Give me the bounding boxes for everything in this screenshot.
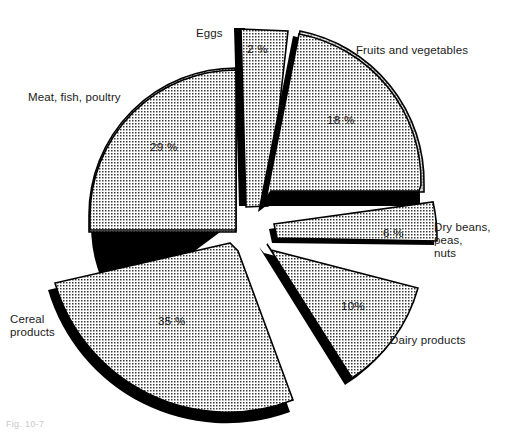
slice-label-fruits-and-vegetables: Fruits and vegetables bbox=[356, 44, 468, 57]
slice-label-meat-fish-poultry: Meat, fish, poultry bbox=[28, 91, 121, 104]
slice-label-eggs: Eggs bbox=[196, 27, 223, 40]
slice-value-eggs: 2 % bbox=[247, 43, 268, 55]
slice-label-cereal-products: Cereal products bbox=[10, 313, 55, 339]
slice-dairy-products bbox=[259, 244, 418, 385]
slice-beans-face bbox=[274, 202, 437, 241]
slice-label-dry-beans-peas-nuts: Dry beans, peas, nuts bbox=[434, 221, 491, 260]
slice-value-fruits-and-vegetables: 18 % bbox=[327, 114, 354, 126]
pie-chart-graphic bbox=[0, 0, 510, 433]
slice-value-dairy-products: 10% bbox=[341, 300, 365, 312]
slice-label-dairy-products: Dairy products bbox=[390, 334, 466, 347]
slice-value-dry-beans-peas-nuts: 6 % bbox=[383, 227, 404, 239]
figure-caption: Fig. 10-7 bbox=[6, 419, 44, 429]
slice-dry-beans-peas-nuts bbox=[269, 202, 437, 245]
slice-value-meat-fish-poultry: 29 % bbox=[150, 141, 177, 153]
slice-value-cereal-products: 35 % bbox=[158, 315, 185, 327]
pie-chart-figure: Eggs Fruits and vegetables Dry beans, pe… bbox=[0, 0, 510, 433]
